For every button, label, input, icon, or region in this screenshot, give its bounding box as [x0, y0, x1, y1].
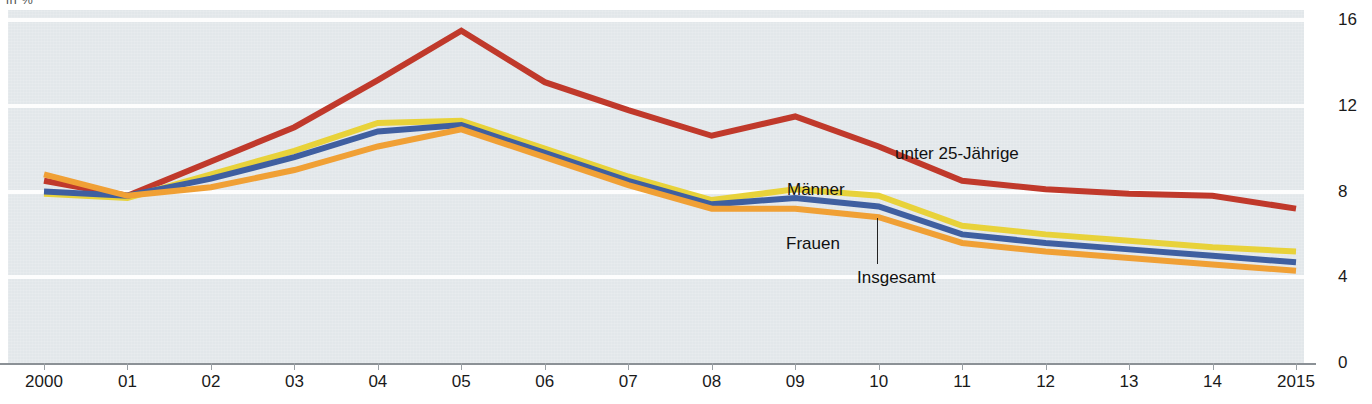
x-axis-line [0, 363, 1316, 365]
x-axis-label: 07 [619, 372, 638, 392]
x-axis-label: 10 [869, 372, 888, 392]
x-tick [1046, 363, 1047, 370]
x-tick [795, 363, 796, 370]
series-line-m-nner [44, 121, 1296, 252]
x-tick [1213, 363, 1214, 370]
unit-caption-fragment: in % [6, 0, 33, 4]
x-axis-label: 06 [535, 372, 554, 392]
x-axis-label: 2000 [25, 372, 63, 392]
x-axis-label: 12 [1036, 372, 1055, 392]
x-axis-label: 08 [702, 372, 721, 392]
y-axis-label: 8 [1338, 182, 1347, 202]
x-tick [378, 363, 379, 370]
x-tick [127, 363, 128, 370]
x-axis-label: 2015 [1277, 372, 1315, 392]
x-tick [1296, 363, 1297, 370]
x-tick [461, 363, 462, 370]
x-axis-label: 13 [1120, 372, 1139, 392]
annotation-frauen: Frauen [786, 234, 840, 254]
y-axis-label: 16 [1338, 10, 1357, 30]
series-lines [8, 10, 1304, 363]
y-axis-label: 0 [1338, 353, 1347, 373]
x-tick [712, 363, 713, 370]
x-tick [44, 363, 45, 370]
x-tick [294, 363, 295, 370]
annotation-unter-25-j-hrige: unter 25-Jährige [895, 144, 1019, 164]
y-axis-label: 12 [1338, 96, 1357, 116]
insgesamt-leader-line [877, 218, 878, 264]
x-tick [628, 363, 629, 370]
x-axis-label: 14 [1203, 372, 1222, 392]
chart-root: in % 20000102030405060708091011121314201… [0, 0, 1372, 404]
annotation-insgesamt: Insgesamt [857, 268, 935, 288]
x-tick [879, 363, 880, 370]
x-tick [211, 363, 212, 370]
x-axis-label: 03 [285, 372, 304, 392]
x-tick [1129, 363, 1130, 370]
x-tick [545, 363, 546, 370]
annotation-m-nner: Männer [787, 180, 845, 200]
x-axis-label: 11 [953, 372, 971, 392]
x-axis-label: 05 [452, 372, 471, 392]
x-axis-label: 09 [786, 372, 805, 392]
y-axis-label: 4 [1338, 267, 1347, 287]
x-axis-label: 02 [201, 372, 220, 392]
x-axis-label: 01 [118, 372, 137, 392]
x-tick [962, 363, 963, 370]
x-axis-label: 04 [368, 372, 387, 392]
